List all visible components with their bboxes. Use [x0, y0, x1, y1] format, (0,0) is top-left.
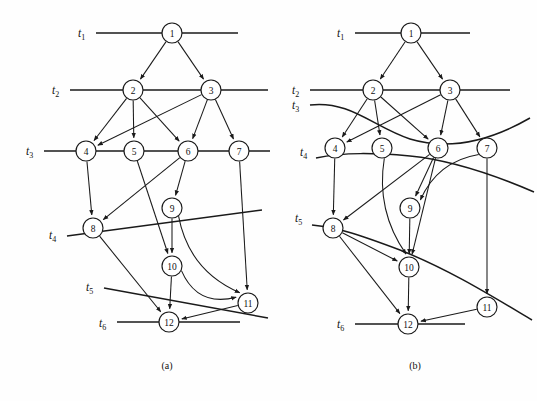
edge-9-10	[409, 218, 410, 253]
node-7[interactable]: 7	[229, 141, 249, 161]
edge-6-9	[176, 161, 186, 195]
node-label-8: 8	[331, 224, 336, 234]
node-11[interactable]: 11	[477, 297, 497, 317]
node-3[interactable]: 3	[440, 80, 460, 100]
edge-2-6	[381, 97, 428, 139]
edge-2-6	[140, 98, 179, 141]
edge-4-8	[87, 161, 92, 214]
node-10[interactable]: 10	[162, 256, 182, 276]
node-3[interactable]: 3	[201, 80, 221, 100]
node-label-2: 2	[371, 86, 376, 96]
time-label-subscript: 4	[303, 152, 307, 161]
edge-1-3	[417, 42, 443, 79]
edge-3-4	[98, 95, 202, 146]
node-1[interactable]: 1	[401, 23, 421, 43]
node-label-11: 11	[243, 299, 252, 309]
node-2[interactable]: 2	[363, 80, 383, 100]
node-label-7: 7	[485, 144, 490, 154]
node-label-4: 4	[333, 144, 338, 154]
time-label-subscript: 3	[29, 151, 33, 160]
time-label-t6: t6	[99, 317, 106, 332]
time-label-t1: t1	[78, 27, 85, 42]
edge-3-6	[441, 100, 448, 135]
edge-7-9	[420, 154, 478, 199]
node-label-4: 4	[84, 147, 89, 157]
time-curve-t3-curve	[310, 104, 530, 144]
edge-1-3	[178, 42, 204, 79]
time-label-t5: t5	[86, 281, 93, 296]
time-label-t4: t4	[49, 229, 56, 244]
node-label-9: 9	[408, 204, 413, 214]
edge-8-12	[100, 236, 161, 312]
time-label-subscript: 2	[295, 90, 299, 99]
node-5[interactable]: 5	[372, 138, 392, 158]
time-label-t2: t2	[292, 84, 299, 99]
node-label-12: 12	[403, 320, 413, 330]
time-label-subscript: 3	[295, 105, 299, 114]
edge-2-5	[375, 100, 380, 135]
node-9[interactable]: 9	[162, 198, 182, 218]
node-11[interactable]: 11	[238, 293, 258, 313]
node-label-12: 12	[164, 318, 174, 328]
node-10[interactable]: 10	[399, 257, 419, 277]
caption-b: (b)	[409, 360, 421, 372]
edge-1-2	[380, 42, 405, 79]
node-label-6: 6	[186, 147, 191, 157]
time-label-subscript: 2	[55, 90, 59, 99]
edge-3-7	[215, 100, 233, 139]
edge-1-2	[140, 42, 166, 79]
time-label-t1: t1	[337, 27, 344, 42]
time-label-subscript: 5	[298, 218, 302, 227]
node-5[interactable]: 5	[124, 141, 144, 161]
node-label-11: 11	[482, 303, 491, 313]
node-8[interactable]: 8	[83, 218, 103, 238]
node-label-9: 9	[170, 204, 175, 214]
node-8[interactable]: 8	[323, 218, 343, 238]
node-label-10: 10	[404, 263, 414, 273]
node-6[interactable]: 6	[428, 138, 448, 158]
node-label-1: 1	[409, 29, 414, 39]
node-label-5: 5	[132, 147, 137, 157]
time-label-subscript: 6	[340, 324, 344, 333]
caption-a: (a)	[161, 360, 172, 372]
node-label-10: 10	[167, 262, 177, 272]
time-label-subscript: 4	[52, 235, 56, 244]
node-label-6: 6	[436, 144, 441, 154]
node-12[interactable]: 12	[398, 314, 418, 334]
edge-2-4	[342, 99, 367, 137]
node-label-8: 8	[91, 224, 96, 234]
time-label-t2: t2	[52, 84, 59, 99]
node-label-1: 1	[170, 29, 175, 39]
edge-11-12	[421, 309, 477, 321]
time-curve-t4-curve	[316, 154, 534, 192]
time-label-t6: t6	[337, 318, 344, 333]
node-6[interactable]: 6	[178, 141, 198, 161]
node-4[interactable]: 4	[325, 138, 345, 158]
edge-3-7	[456, 99, 480, 137]
edge-10-11	[181, 271, 236, 300]
node-7[interactable]: 7	[477, 138, 497, 158]
node-12[interactable]: 12	[159, 312, 179, 332]
time-label-t3: t3	[26, 145, 33, 160]
node-label-2: 2	[131, 86, 136, 96]
node-label-5: 5	[380, 144, 385, 154]
edge-2-4	[94, 98, 127, 140]
node-1[interactable]: 1	[162, 23, 182, 43]
time-label-t5: t5	[295, 212, 302, 227]
edge-8-10	[342, 233, 397, 261]
edge-10-12	[408, 277, 409, 310]
edge-8-12	[339, 236, 399, 313]
time-label-subscript: 5	[89, 287, 93, 296]
node-label-7: 7	[237, 147, 242, 157]
node-9[interactable]: 9	[400, 198, 420, 218]
figure-svg: 123456789101112t1t2t3t4t5t6 123456789101…	[0, 0, 537, 401]
edge-3-4	[347, 95, 441, 142]
time-label-subscript: 1	[81, 33, 85, 42]
time-label-subscript: 1	[340, 33, 344, 42]
diagram-a-group: 123456789101112t1t2t3t4t5t6	[26, 23, 270, 332]
node-2[interactable]: 2	[123, 80, 143, 100]
edge-4-8	[333, 158, 334, 214]
node-4[interactable]: 4	[76, 141, 96, 161]
edge-3-6	[193, 100, 208, 139]
edge-10-12	[170, 276, 172, 308]
